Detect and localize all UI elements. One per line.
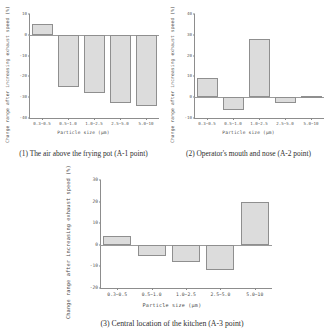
x-tick-mark [207, 118, 208, 120]
plot-area-1: Change range after increasing exhaust sp… [2, 6, 165, 142]
x-tick-label: 2.5~5.0 [111, 122, 128, 126]
y-tick-label: 20 [92, 199, 98, 204]
bar [275, 97, 296, 103]
x-tick-label: 5.0~10 [139, 122, 154, 126]
y-tick-label: -40 [20, 116, 27, 120]
panel-caption-2: (2) Operator's mouth and nose (A-2 point… [167, 149, 330, 158]
x-tick-mark [233, 118, 234, 120]
panel-caption-3: (3) Central location of the kitchen (A-3… [62, 319, 282, 328]
bar [103, 236, 131, 245]
y-tick-label: 10 [187, 74, 192, 78]
x-tick-label: 0.5~1.0 [224, 122, 241, 126]
bar [249, 39, 270, 97]
y-tick-label: -30 [20, 95, 27, 99]
y-tick-label: 10 [92, 221, 98, 226]
x-tick-mark [42, 118, 43, 120]
y-axis-title-1: Change range after increasing exhaust sp… [2, 6, 14, 142]
plot-canvas-2 [194, 14, 324, 118]
bar [223, 97, 244, 109]
y-axis-line-1 [29, 14, 30, 118]
x-tick-label: 1.0~2.5 [250, 122, 267, 126]
x-tick-label: 5.0~10 [304, 122, 319, 126]
x-tick-label: 1.0~2.5 [85, 122, 102, 126]
plot-area-2: Change range after increasing exhaust sp… [167, 6, 330, 142]
x-axis-title-1: Particle size (μm) [2, 130, 165, 135]
figure-page: Change range after increasing exhaust sp… [0, 0, 331, 330]
y-axis-title-text-1: Change range after increasing exhaust sp… [6, 5, 11, 142]
x-tick-label: 0.5~1.0 [142, 293, 162, 298]
chart-panel-3: Change range after increasing exhaust sp… [62, 172, 282, 328]
x-tick-label: 5.0~10 [246, 293, 263, 298]
y-axis-title-3: Change range after increasing exhaust sp… [62, 172, 74, 312]
bar [84, 35, 105, 93]
bar [110, 35, 131, 104]
x-tick-mark [259, 118, 260, 120]
bar [197, 78, 218, 97]
plot-area-3: Change range after increasing exhaust sp… [62, 172, 282, 312]
x-axis-title-3: Particle size (μm) [62, 302, 282, 308]
y-axis-title-text-2: Change range after increasing exhaust sp… [171, 5, 176, 142]
x-tick-mark [94, 118, 95, 120]
y-axis-line-2 [194, 14, 195, 118]
plot-canvas-3 [100, 180, 272, 288]
chart-panel-2: Change range after increasing exhaust sp… [167, 6, 330, 158]
y-axis-ticks-3: 3020100-10-20 [86, 180, 99, 288]
x-tick-label: 2.5~5.0 [211, 293, 231, 298]
plot-canvas-1 [29, 14, 159, 118]
x-tick-mark [152, 288, 153, 290]
y-axis-title-text-3: Change range after increasing exhaust sp… [65, 165, 71, 319]
bar [136, 35, 157, 106]
y-tick-label: 40 [187, 12, 192, 16]
y-tick-label: 0 [190, 95, 192, 99]
bar [172, 245, 200, 262]
x-tick-label: 2.5~5.0 [276, 122, 293, 126]
y-tick-label: 10 [22, 12, 27, 16]
x-tick-label: 0.3~0.5 [107, 293, 127, 298]
y-axis-line-3 [100, 180, 101, 288]
bar [301, 96, 322, 98]
y-tick-label: -20 [90, 286, 98, 291]
y-tick-label: 0 [95, 243, 98, 248]
bar [241, 202, 269, 245]
y-tick-label: 30 [187, 33, 192, 37]
y-tick-label: -10 [90, 264, 98, 269]
bar [32, 24, 53, 34]
y-tick-label: 0 [25, 33, 27, 37]
x-tick-mark [220, 288, 221, 290]
x-tick-mark [255, 288, 256, 290]
x-tick-mark [311, 118, 312, 120]
y-tick-label: -20 [20, 74, 27, 78]
x-tick-mark [186, 288, 187, 290]
y-tick-label: 20 [187, 54, 192, 58]
panel-caption-1: (1) The air above the frying pot (A-1 po… [2, 149, 165, 158]
y-tick-label: -10 [20, 54, 27, 58]
y-tick-label: 30 [92, 178, 98, 183]
x-tick-mark [120, 118, 121, 120]
x-tick-label: 1.0~2.5 [176, 293, 196, 298]
x-tick-label: 0.5~1.0 [59, 122, 76, 126]
bar [206, 245, 234, 270]
bar [58, 35, 79, 87]
chart-panel-1: Change range after increasing exhaust sp… [2, 6, 165, 158]
y-axis-ticks-1: 100-10-20-30-40 [15, 14, 28, 118]
y-axis-title-2: Change range after increasing exhaust sp… [167, 6, 179, 142]
x-tick-mark [117, 288, 118, 290]
x-tick-label: 0.3~0.5 [198, 122, 215, 126]
x-tick-label: 0.3~0.5 [33, 122, 50, 126]
y-axis-ticks-2: 403020100-10 [180, 14, 193, 118]
y-tick-label: -10 [185, 116, 192, 120]
x-tick-mark [68, 118, 69, 120]
x-axis-title-2: Particle size (μm) [167, 130, 330, 135]
x-tick-mark [146, 118, 147, 120]
bar [138, 245, 166, 256]
x-tick-mark [285, 118, 286, 120]
